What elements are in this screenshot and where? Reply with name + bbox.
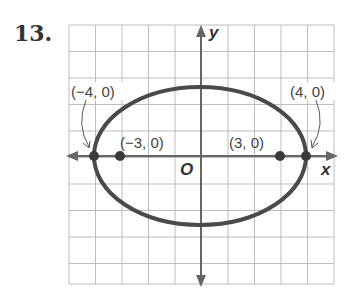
label-focus-left: (−3, 0) xyxy=(120,134,164,151)
label-vertex-right: (4, 0) xyxy=(290,83,325,100)
label-focus-right: (3, 0) xyxy=(229,134,264,151)
y-axis-label: y xyxy=(208,23,220,42)
ellipse-graph: (−4, 0) (−3, 0) (3, 0) (4, 0) y x O xyxy=(0,0,350,294)
origin-label: O xyxy=(180,160,193,179)
vertex-point-right xyxy=(301,151,311,161)
focus-point-right xyxy=(275,151,285,161)
focus-point-left xyxy=(115,151,125,161)
label-vertex-left: (−4, 0) xyxy=(71,83,115,100)
x-axis-label: x xyxy=(320,160,332,179)
vertex-point-left xyxy=(89,151,99,161)
axes xyxy=(66,25,338,287)
